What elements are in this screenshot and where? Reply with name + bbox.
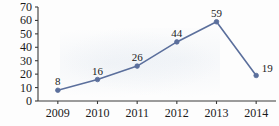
x-axis-tick-label: 2009: [36, 107, 80, 119]
data-point: [95, 77, 100, 82]
y-axis-tick-label: 40: [2, 41, 32, 53]
data-point-value-label: 59: [205, 8, 229, 19]
y-axis-tick-label: 10: [2, 82, 32, 94]
data-point: [56, 88, 61, 93]
y-axis-tick-label: 30: [2, 55, 32, 67]
data-point: [175, 40, 180, 45]
data-point-value-label: 16: [86, 66, 110, 77]
data-point-value-label: 26: [125, 52, 149, 63]
data-point: [135, 64, 140, 69]
x-axis-tick-label: 2011: [115, 107, 159, 119]
y-axis-tick-label: 70: [2, 1, 32, 13]
data-point-value-label: 8: [46, 76, 70, 87]
x-axis-tick-label: 2010: [76, 107, 120, 119]
data-point-value-label: 44: [165, 28, 189, 39]
x-axis-tick-label: 2014: [234, 107, 278, 119]
data-point-markers: [56, 19, 259, 92]
y-axis-tick-label: 20: [2, 68, 32, 80]
data-point-value-label: 19: [255, 63, 279, 74]
line-chart: 010203040506070 200920102011201220132014…: [0, 0, 279, 126]
data-point: [214, 19, 219, 24]
series-line: [58, 22, 256, 90]
x-axis-tick-label: 2012: [155, 107, 199, 119]
y-axis-tick-label: 60: [2, 14, 32, 26]
y-axis-tick-label: 0: [2, 95, 32, 107]
x-axis-tick-label: 2013: [195, 107, 239, 119]
y-axis-tick-label: 50: [2, 28, 32, 40]
